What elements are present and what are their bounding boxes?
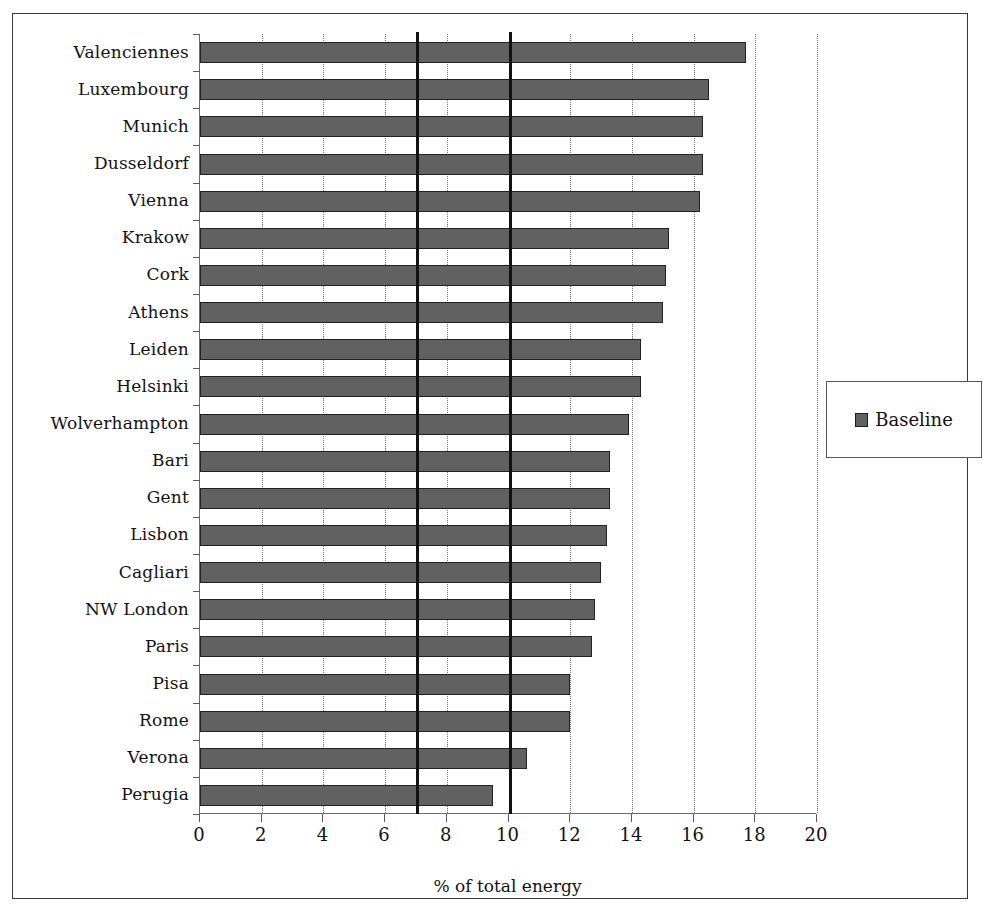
x-tick-label-20: 20 (805, 826, 828, 844)
legend-label-baseline: Baseline (875, 409, 953, 430)
bar-cagliari (200, 562, 601, 583)
x-tick-6 (384, 814, 385, 822)
x-tick-4 (322, 814, 323, 822)
x-tick-2 (261, 814, 262, 822)
y-tick (193, 145, 200, 146)
y-axis-label-krakow: Krakow (122, 229, 189, 246)
x-axis: 02468101214161820 (199, 814, 816, 874)
chart-legend: Baseline (826, 381, 982, 458)
y-tick (193, 220, 200, 221)
x-tick-label-10: 10 (496, 826, 519, 844)
y-axis-label-helsinki: Helsinki (116, 378, 189, 395)
y-axis-label-vienna: Vienna (128, 192, 189, 209)
figure-frame: ValenciennesLuxembourgMunichDusseldorfVi… (12, 13, 968, 899)
y-axis-label-perugia: Perugia (121, 786, 189, 803)
y-tick (193, 777, 200, 778)
legend-entry-baseline: Baseline (855, 409, 953, 430)
x-tick-label-2: 2 (255, 826, 266, 844)
y-axis-label-gent: Gent (147, 489, 189, 506)
x-tick-10 (508, 814, 509, 822)
y-tick (193, 703, 200, 704)
y-axis-labels: ValenciennesLuxembourgMunichDusseldorfVi… (31, 34, 189, 814)
y-axis-label-cagliari: Cagliari (119, 564, 189, 581)
y-axis-label-lisbon: Lisbon (130, 526, 189, 543)
gridline-20 (817, 34, 818, 813)
x-tick-12 (569, 814, 570, 822)
reference-line-7 (416, 32, 419, 814)
x-tick-20 (816, 814, 817, 822)
x-tick-0 (199, 814, 200, 822)
y-tick (193, 480, 200, 481)
y-tick (193, 554, 200, 555)
y-tick (193, 368, 200, 369)
bar-perugia (200, 785, 493, 806)
bar-munich (200, 116, 703, 137)
plot-area (199, 34, 816, 814)
x-tick-label-4: 4 (317, 826, 328, 844)
bar-gent (200, 488, 610, 509)
reference-line-10 (509, 32, 512, 814)
bar-nw-london (200, 599, 595, 620)
y-tick (193, 443, 200, 444)
bar-helsinki (200, 376, 641, 397)
x-tick-label-18: 18 (743, 826, 766, 844)
x-tick-18 (754, 814, 755, 822)
bar-valenciennes (200, 42, 746, 63)
y-tick (193, 71, 200, 72)
x-tick-16 (693, 814, 694, 822)
x-tick-label-8: 8 (440, 826, 451, 844)
bar-rome (200, 711, 570, 732)
y-tick (193, 34, 200, 35)
y-tick (193, 257, 200, 258)
bar-wolverhampton (200, 414, 629, 435)
bar-luxembourg (200, 79, 709, 100)
x-tick-label-16: 16 (681, 826, 704, 844)
y-axis-label-dusseldorf: Dusseldorf (94, 155, 189, 172)
y-axis-label-rome: Rome (139, 712, 189, 729)
x-axis-title: % of total energy (199, 876, 816, 896)
x-tick-14 (631, 814, 632, 822)
y-tick (193, 591, 200, 592)
y-axis-label-wolverhampton: Wolverhampton (51, 415, 189, 432)
chart-page: ValenciennesLuxembourgMunichDusseldorfVi… (0, 0, 983, 917)
y-tick (193, 183, 200, 184)
legend-swatch-icon (855, 413, 868, 427)
y-axis-label-nw-london: NW London (85, 601, 189, 618)
y-tick (193, 405, 200, 406)
y-axis-label-athens: Athens (128, 304, 189, 321)
bar-verona (200, 748, 527, 769)
bar-paris (200, 636, 592, 657)
y-tick (193, 108, 200, 109)
bar-athens (200, 302, 663, 323)
y-axis-label-cork: Cork (147, 266, 189, 283)
bar-krakow (200, 228, 669, 249)
y-axis-label-munich: Munich (123, 118, 189, 135)
y-axis-label-paris: Paris (145, 638, 189, 655)
y-axis-label-luxembourg: Luxembourg (78, 81, 189, 98)
bar-dusseldorf (200, 154, 703, 175)
y-tick (193, 665, 200, 666)
bar-bari (200, 451, 610, 472)
x-tick-label-0: 0 (193, 826, 204, 844)
y-axis-label-bari: Bari (152, 452, 189, 469)
y-axis-label-leiden: Leiden (129, 341, 189, 358)
x-tick-8 (446, 814, 447, 822)
x-tick-label-14: 14 (619, 826, 642, 844)
y-tick (193, 331, 200, 332)
bar-vienna (200, 191, 700, 212)
bar-pisa (200, 674, 570, 695)
bar-cork (200, 265, 666, 286)
x-tick-label-12: 12 (558, 826, 581, 844)
y-axis-label-valenciennes: Valenciennes (74, 44, 189, 61)
y-tick (193, 517, 200, 518)
y-tick (193, 294, 200, 295)
x-tick-label-6: 6 (378, 826, 389, 844)
y-axis-label-pisa: Pisa (152, 675, 189, 692)
y-axis-label-verona: Verona (128, 749, 189, 766)
y-tick (193, 740, 200, 741)
y-tick (193, 628, 200, 629)
bar-lisbon (200, 525, 607, 546)
bar-leiden (200, 339, 641, 360)
